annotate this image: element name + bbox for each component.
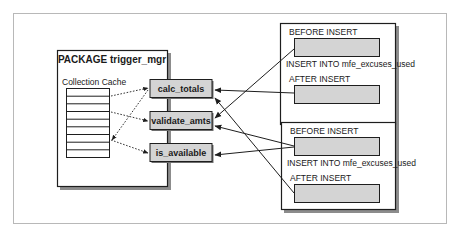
collection-cache-label: Collection Cache — [62, 77, 127, 87]
before-insert-trigger — [295, 138, 380, 156]
package-title: PACKAGE trigger_mgr — [58, 54, 166, 65]
procedure-validate-amts: validate_amts — [150, 112, 214, 132]
trigger-box-2: BEFORE INSERT INSERT INTO mfe_excuses_us… — [282, 123, 417, 214]
trigger-package-diagram: PACKAGE trigger_mgr Collection Cache cal… — [0, 0, 459, 232]
procedure-is-available: is_available — [150, 144, 214, 164]
trigger-box-1: BEFORE INSERT INSERT INTO mfe_excuses_us… — [281, 24, 416, 129]
procedure-label: is_available — [156, 148, 207, 158]
insert-statement-label: INSERT INTO mfe_excuses_used — [287, 158, 416, 168]
before-insert-label: BEFORE INSERT — [289, 27, 357, 37]
procedure-calc-totals: calc_totals — [150, 80, 214, 100]
after-insert-label: AFTER INSERT — [290, 173, 351, 183]
after-insert-label: AFTER INSERT — [289, 74, 350, 84]
after-insert-trigger — [295, 86, 380, 104]
before-insert-label: BEFORE INSERT — [290, 126, 358, 136]
collection-cache-grid — [67, 89, 110, 158]
procedure-label: validate_amts — [151, 116, 211, 126]
insert-statement-label: INSERT INTO mfe_excuses_used — [286, 59, 415, 69]
after-insert-trigger — [295, 185, 380, 203]
before-insert-trigger — [295, 39, 380, 57]
procedure-label: calc_totals — [158, 84, 205, 94]
